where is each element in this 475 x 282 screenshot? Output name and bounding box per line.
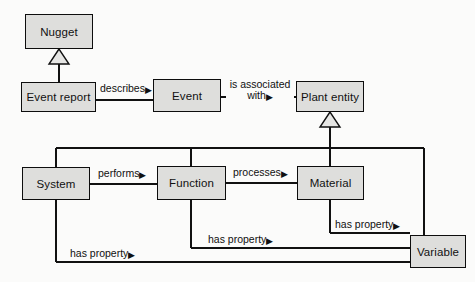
edge-label-performs: performs▶ bbox=[97, 168, 147, 180]
uml-class-diagram: Nugget Event report Event Plant entity S… bbox=[0, 0, 475, 282]
edge-label-has-property-function: has property▶ bbox=[207, 234, 274, 246]
association-arrowhead-icon: ▶ bbox=[266, 92, 273, 102]
association-arrowhead-icon: ▶ bbox=[139, 170, 146, 180]
edge-label-describes: describes▶ bbox=[99, 83, 153, 95]
association-arrowhead-icon: ▶ bbox=[281, 169, 288, 179]
class-node-event-report[interactable]: Event report bbox=[21, 82, 96, 112]
association-arrowhead-icon: ▶ bbox=[266, 236, 273, 246]
generalization-arrowhead-plant-entity bbox=[320, 112, 340, 127]
class-node-label: Nugget bbox=[40, 26, 78, 38]
class-node-label: Variable bbox=[417, 246, 459, 258]
class-node-system[interactable]: System bbox=[22, 167, 90, 200]
edge-label-has-property-system: has property▶ bbox=[69, 248, 136, 260]
class-node-material[interactable]: Material bbox=[297, 166, 364, 200]
class-node-label: Event bbox=[172, 90, 202, 102]
edge-label-has-property-material: has property▶ bbox=[334, 219, 401, 231]
class-node-label: System bbox=[37, 178, 76, 190]
class-node-label: Plant entity bbox=[301, 91, 359, 103]
generalization-arrowhead-nugget bbox=[49, 49, 69, 64]
class-node-nugget[interactable]: Nugget bbox=[25, 14, 93, 49]
class-node-variable[interactable]: Variable bbox=[410, 235, 466, 268]
class-node-label: Function bbox=[169, 177, 214, 189]
edge-label-is-associated-with: is associated with▶ bbox=[226, 79, 294, 102]
class-node-label: Event report bbox=[27, 91, 91, 103]
association-arrowhead-icon: ▶ bbox=[128, 250, 135, 260]
class-node-function[interactable]: Function bbox=[157, 166, 226, 200]
class-node-label: Material bbox=[310, 177, 352, 189]
class-node-plant-entity[interactable]: Plant entity bbox=[296, 81, 364, 112]
class-node-event[interactable]: Event bbox=[153, 79, 221, 112]
edge-label-processes: processes▶ bbox=[232, 167, 289, 179]
association-arrowhead-icon: ▶ bbox=[393, 221, 400, 231]
association-arrowhead-icon: ▶ bbox=[145, 85, 152, 95]
